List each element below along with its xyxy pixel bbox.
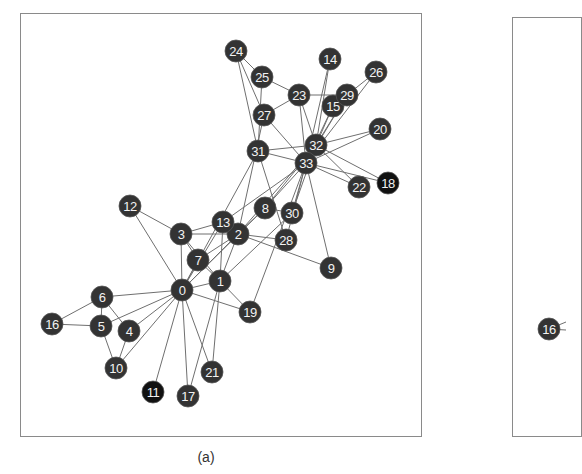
graph-node-9: 9	[320, 257, 342, 279]
graph-node-25: 25	[251, 66, 273, 88]
graph-node-6: 6	[91, 286, 113, 308]
graph-node-21: 21	[201, 361, 223, 383]
graph-node-13: 13	[212, 211, 234, 233]
node-label: 24	[229, 44, 243, 59]
graph-node-30: 30	[281, 202, 303, 224]
node-label: 22	[352, 180, 366, 195]
graph-node-29: 29	[336, 84, 358, 106]
node-label: 3	[178, 227, 185, 242]
graph-edge-18-32	[316, 145, 388, 183]
graph-node-18: 18	[377, 172, 399, 194]
graph-node-12: 12	[119, 195, 141, 217]
node-label: 0	[179, 283, 186, 298]
graph-edge-9-33	[306, 163, 331, 268]
node-label: 13	[216, 215, 230, 230]
graph-node-1: 1	[209, 270, 231, 292]
node-label: 16	[542, 322, 556, 337]
graph-node-16: 16	[41, 313, 63, 335]
graph-node-0: 0	[171, 279, 193, 301]
graph-node-19: 19	[239, 301, 261, 323]
graph-edge-0-11	[153, 290, 182, 392]
graph-edge-0-21	[182, 290, 212, 372]
node-label: 19	[243, 305, 257, 320]
graph-node-7: 7	[187, 249, 209, 271]
graph-node-24: 24	[225, 40, 247, 62]
node-label: 27	[257, 108, 271, 123]
graph-node-10: 10	[105, 357, 127, 379]
graph-node-31: 31	[247, 140, 269, 162]
graph-node-3: 3	[170, 223, 192, 245]
node-label: 14	[323, 52, 337, 67]
node-label: 31	[251, 144, 265, 159]
graph-node-8: 8	[254, 197, 276, 219]
graph-node-28: 28	[275, 229, 297, 251]
node-label: 17	[181, 389, 195, 404]
node-label: 7	[195, 253, 202, 268]
graph-edge-0-6	[102, 290, 182, 297]
node-label: 9	[328, 261, 335, 276]
node-label: 4	[126, 324, 133, 339]
graph-edge-18-33	[306, 163, 388, 183]
graph-node-16: 16	[538, 318, 560, 340]
graph-node-23: 23	[288, 84, 310, 106]
node-label: 5	[98, 319, 105, 334]
graph-node-26: 26	[365, 61, 387, 83]
node-label: 30	[285, 206, 299, 221]
graph-node-27: 27	[253, 104, 275, 126]
node-label: 20	[373, 122, 387, 137]
node-label: 10	[109, 361, 123, 376]
node-label: 29	[340, 88, 354, 103]
node-label: 16	[45, 317, 59, 332]
node-label: 18	[381, 176, 395, 191]
node-label: 6	[99, 290, 106, 305]
graph-node-4: 4	[118, 320, 140, 342]
graph-node-14: 14	[319, 48, 341, 70]
node-label: 1	[217, 274, 224, 289]
panel-a-nodes: 0123456789101112131415161718192021222324…	[41, 40, 399, 407]
graph-edge-0-12	[130, 206, 182, 290]
node-label: 28	[279, 233, 293, 248]
node-label: 32	[309, 138, 323, 153]
panel-a-caption: (a)	[186, 449, 226, 465]
node-label: 33	[299, 156, 313, 171]
panel-b-nodes: 16	[538, 318, 560, 340]
node-label: 21	[205, 365, 219, 380]
node-label: 23	[292, 88, 306, 103]
graph-node-5: 5	[90, 315, 112, 337]
graph-edge-0-17	[182, 290, 188, 396]
graph-node-17: 17	[177, 385, 199, 407]
node-label: 25	[255, 70, 269, 85]
node-label: 8	[262, 201, 269, 216]
graph-node-22: 22	[348, 176, 370, 198]
graph-node-11: 11	[142, 381, 164, 403]
graph-edge-28-31	[258, 151, 286, 240]
node-label: 11	[147, 385, 160, 400]
graph-node-33: 33	[295, 152, 317, 174]
graph-edge-24-31	[236, 51, 258, 151]
node-label: 2	[235, 227, 242, 242]
node-label: 12	[123, 199, 137, 214]
graph-node-20: 20	[369, 118, 391, 140]
node-label: 26	[369, 65, 383, 80]
